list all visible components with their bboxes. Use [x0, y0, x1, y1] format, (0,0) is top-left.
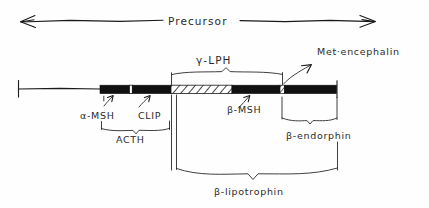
beta-msh-label: β-MSH	[227, 104, 261, 115]
peptide-backbone	[19, 81, 101, 98]
clip-pointer	[139, 96, 150, 107]
beta-endorphin-label: β-endorphin	[286, 130, 352, 141]
gamma-lph-brace	[172, 68, 283, 85]
segment-beta-msh-block	[232, 85, 280, 93]
segment-beta-endorphin-block	[285, 85, 337, 93]
segment-clip-block	[132, 85, 171, 93]
beta-lipotrophin-label: β-lipotrophin	[214, 186, 284, 197]
gamma-lph-label: γ-LPH	[196, 54, 232, 66]
beta-endorphin-brace	[282, 97, 337, 124]
acth-brace	[102, 121, 170, 134]
segment-met-enkephalin-marker	[280, 85, 285, 93]
precursor-label: Precursor	[168, 15, 228, 27]
segment-gamma-lph-block	[171, 85, 232, 93]
alpha-msh-label: α-MSH	[80, 110, 115, 121]
segment-gap-1	[130, 85, 133, 93]
diagram-canvas: Precursor γ-LPH	[0, 0, 429, 208]
met-enkephalin-label: Met·encephalin	[317, 46, 400, 57]
met-enkephalin-callout-arrow	[284, 65, 312, 84]
segment-alpha-msh-block	[100, 85, 130, 93]
alpha-msh-pointer	[104, 96, 113, 106]
acth-label: ACTH	[116, 134, 145, 145]
clip-label: CLIP	[138, 110, 161, 121]
